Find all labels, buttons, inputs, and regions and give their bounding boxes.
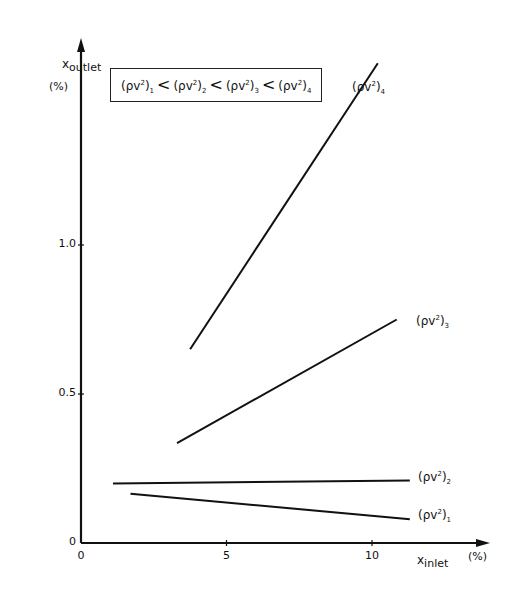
legend-term: (ρv2)4 [278, 79, 311, 93]
legend-term: (ρv2)2 [173, 79, 206, 93]
y-axis-unit: (%) [49, 80, 68, 93]
legend-term: (ρv2)1 [121, 79, 154, 93]
y-tick-label: 1.0 [59, 237, 77, 250]
series-line-1 [130, 494, 409, 519]
x-axis-unit: (%) [468, 550, 487, 563]
legend-term: (ρv2)3 [226, 79, 259, 93]
y-axis-arrow-icon [77, 38, 85, 52]
x-tick-label: 10 [365, 549, 379, 562]
y-axis-title: xoutlet [62, 57, 101, 74]
series-label-1: (ρv2)1 [418, 508, 451, 524]
x-tick-label: 5 [223, 549, 230, 562]
series-line-4 [190, 63, 378, 349]
series-line-3 [177, 320, 397, 444]
x-axis-title: xinlet [417, 553, 448, 570]
y-tick-label: 0 [69, 535, 76, 548]
less-than-symbol: < [262, 75, 275, 94]
series-label-3: (ρv2)3 [416, 314, 449, 330]
series-lines [113, 63, 410, 519]
legend-box: (ρv2)1<(ρv2)2<(ρv2)3<(ρv2)4 [110, 68, 322, 102]
less-than-symbol: < [209, 75, 222, 94]
x-tick-label: 0 [78, 549, 85, 562]
series-line-2 [113, 480, 410, 483]
x-axis-arrow-icon [476, 539, 490, 547]
y-tick-label: 0.5 [59, 386, 77, 399]
less-than-symbol: < [157, 75, 170, 94]
series-label-4: (ρv2)4 [352, 80, 385, 96]
series-label-2: (ρv2)2 [418, 470, 451, 486]
